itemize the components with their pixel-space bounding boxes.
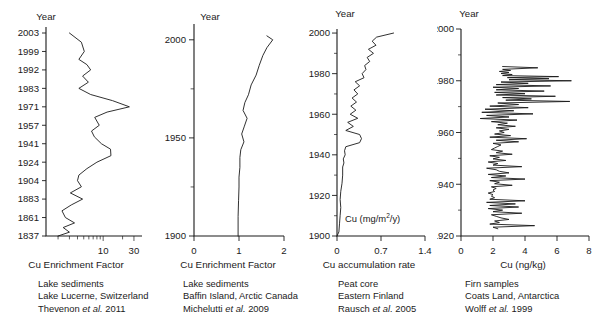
panel-lake-lucerne: Year 20031999199219831971195719411924190…: [0, 0, 152, 275]
panel-3-y-tick: 2000: [309, 27, 330, 38]
panel-3-y-tick: 1960: [309, 109, 330, 120]
panel-4-x-tick: 6: [554, 245, 559, 256]
panel-1-x-axis-title: Cu Enrichment Factor: [28, 259, 124, 270]
panel-3-axes: [332, 29, 425, 241]
panel-2-y-tick-labels: 190019502000: [165, 34, 186, 241]
panel-1-y-tick: 1983: [18, 83, 39, 94]
panel-1-y-tick: 1999: [18, 46, 39, 57]
panel-3-data-curve: [337, 33, 394, 236]
panel-4-x-tick: 8: [586, 245, 591, 256]
panel-1-y-tick: 1837: [18, 230, 39, 241]
panel-1-y-tick: 1971: [18, 101, 39, 112]
panel-1-plot: Year 20031999199219831971195719411924190…: [0, 0, 152, 275]
panel-firn-samples: Year 19201940196019802000 02468 Cu (ng/k…: [437, 0, 604, 275]
caption-3-reference: Rausch et al. 2005: [338, 303, 416, 315]
panel-4-y-tick: 1940: [437, 179, 454, 190]
panel-2-y-tick: 1950: [165, 132, 186, 143]
panel-4-axes: [456, 29, 589, 241]
panel-3-x-axis-title: Cu accumulation rate: [323, 259, 416, 270]
panel-4-plot: Year 19201940196019802000 02468 Cu (ng/k…: [437, 0, 604, 275]
panel-baffin-island: Year 190019502000 012 Cu Enrichment Fact…: [152, 0, 297, 275]
panel-1-year-header: Year: [36, 11, 56, 22]
caption-baffin-island: Lake sediments Baffin Island, Arctic Can…: [183, 278, 298, 315]
panel-4-data-curve: [480, 67, 571, 229]
panel-4-x-tick-labels: 02468: [458, 245, 591, 256]
panel-1-x-tick: 10: [98, 245, 109, 256]
panel-4-y-tick: 1980: [437, 75, 454, 86]
panel-1-y-tick: 2003: [18, 27, 39, 38]
panel-1-y-tick: 1883: [18, 193, 39, 204]
caption-2-line2: Baffin Island, Arctic Canada: [183, 290, 298, 302]
panel-2-x-tick: 1: [236, 245, 241, 256]
panel-4-y-tick-labels: 19201940196019802000: [437, 23, 454, 241]
caption-3-line2: Eastern Finland: [338, 290, 416, 302]
panel-2-x-tick: 2: [281, 245, 286, 256]
panel-3-x-tick: 1.4: [418, 245, 432, 256]
panel-3-x-tick: 0: [334, 245, 339, 256]
caption-4-reference: Wolff et al. 1999: [465, 303, 559, 315]
panel-1-y-tick: 1992: [18, 64, 39, 75]
panel-4-y-tick: 1920: [437, 230, 454, 241]
panel-3-plot: Year 190019201940196019802000 00.71.4 Cu…: [297, 0, 437, 275]
caption-lake-lucerne: Lake sediments Lake Lucerne, Switzerland…: [38, 278, 148, 315]
panel-4-year-header: Year: [459, 8, 479, 19]
caption-firn-samples: Firn samples Coats Land, Antarctica Wolf…: [465, 278, 559, 315]
panel-4-x-tick: 4: [522, 245, 528, 256]
cu-records-figure: Year 20031999199219831971195719411924190…: [0, 0, 604, 330]
panel-1-x-tick-labels: 1030: [98, 245, 139, 256]
panel-2-axes: [189, 24, 284, 241]
panel-1-y-tick: 1957: [18, 120, 39, 131]
panel-peat-core: Year 190019201940196019802000 00.71.4 Cu…: [297, 0, 437, 275]
caption-4-line1: Firn samples: [465, 278, 559, 290]
panel-3-unit-annotation: Cu (mg/m2/y): [345, 212, 400, 224]
panel-1-x-tick: 30: [129, 245, 140, 256]
panel-3-y-tick: 1980: [309, 68, 330, 79]
panel-4-x-tick: 2: [490, 245, 495, 256]
panel-2-y-tick: 1900: [165, 230, 186, 241]
panel-3-x-tick-labels: 00.71.4: [334, 245, 432, 256]
caption-1-reference: Thevenon et al. 2011: [38, 303, 148, 315]
panel-1-y-tick: 1904: [18, 175, 40, 186]
panel-4-x-tick: 0: [458, 245, 463, 256]
panel-2-y-tick: 2000: [165, 34, 186, 45]
caption-3-line1: Peat core: [338, 278, 416, 290]
panel-2-data-curve: [238, 36, 273, 236]
caption-4-line2: Coats Land, Antarctica: [465, 290, 559, 302]
caption-1-line2: Lake Lucerne, Switzerland: [38, 290, 148, 302]
panel-3-y-tick: 1920: [309, 190, 330, 201]
panel-1-axes: [42, 27, 142, 241]
panel-2-year-header: Year: [200, 11, 220, 22]
panel-3-y-tick: 1900: [309, 230, 330, 241]
panel-1-y-tick: 1941: [18, 138, 39, 149]
caption-1-line1: Lake sediments: [38, 278, 148, 290]
panel-3-x-tick: 0.7: [374, 245, 387, 256]
caption-peat-core: Peat core Eastern Finland Rausch et al. …: [338, 278, 416, 315]
caption-2-line1: Lake sediments: [183, 278, 298, 290]
panel-1-y-tick-labels: 2003199919921983197119571941192419041883…: [18, 27, 40, 241]
panel-2-x-tick: 0: [191, 245, 196, 256]
panel-2-plot: Year 190019502000 012 Cu Enrichment Fact…: [152, 0, 297, 275]
caption-row: Lake sediments Lake Lucerne, Switzerland…: [0, 278, 604, 330]
panel-1-data-curve: [58, 33, 129, 236]
panel-1-y-tick: 1861: [18, 212, 39, 223]
panel-1-y-tick: 1924: [18, 157, 40, 168]
panel-4-y-tick: 2000: [437, 23, 454, 34]
panel-3-year-header: Year: [335, 8, 355, 19]
caption-2-reference: Michelutti et al. 2009: [183, 303, 298, 315]
panel-2-x-tick-labels: 012: [191, 245, 286, 256]
panel-3-y-tick: 1940: [309, 149, 330, 160]
panel-4-x-axis-title: Cu (ng/kg): [500, 259, 546, 270]
panel-2-x-axis-title: Cu Enrichment Factor: [180, 259, 276, 270]
panel-4-y-tick: 1960: [437, 127, 454, 138]
panel-3-y-tick-labels: 190019201940196019802000: [309, 27, 330, 241]
